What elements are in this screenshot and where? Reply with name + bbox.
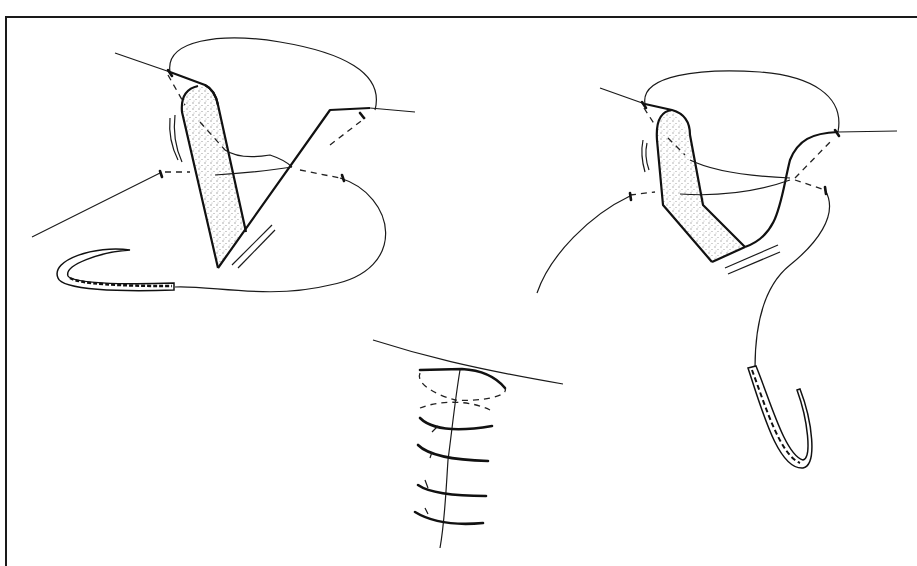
stitch-3 — [418, 485, 486, 496]
right-panel — [537, 71, 897, 468]
needle-right-icon — [748, 366, 812, 468]
stitch-1 — [420, 418, 492, 429]
needle-left-icon — [57, 249, 174, 291]
illustration — [0, 0, 917, 566]
closed-wound-panel — [373, 340, 563, 548]
left-panel — [32, 38, 415, 292]
stitch-4 — [415, 512, 483, 524]
stitch-2 — [418, 445, 488, 461]
